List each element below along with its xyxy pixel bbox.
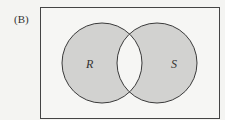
venn-diagram: R S — [0, 0, 225, 120]
set-r-label: R — [85, 57, 94, 71]
set-s-label: S — [171, 57, 177, 71]
